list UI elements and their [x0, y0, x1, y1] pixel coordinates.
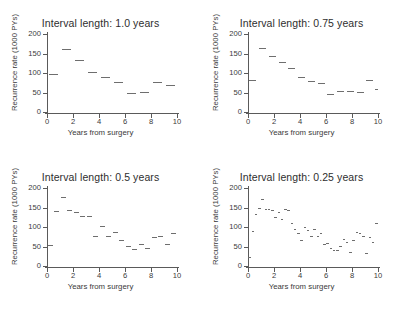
x-axis-tick-label: 8 — [141, 118, 161, 126]
y-axis-tick-label: 0 — [17, 262, 41, 270]
rate-interval-segment — [62, 49, 72, 50]
x-axis-tick-label: 8 — [342, 118, 362, 126]
rate-interval-segment — [127, 93, 137, 94]
rate-interval-segment — [333, 250, 335, 251]
y-axis-tick-label: 200 — [218, 30, 242, 38]
y-tick-label-wrap: 0 — [216, 266, 242, 267]
rate-interval-segment — [281, 219, 283, 220]
rate-interval-segment — [337, 91, 344, 92]
rate-interval-segment — [153, 82, 163, 83]
rate-interval-segment — [300, 240, 302, 241]
y-axis-tick-label: 0 — [218, 108, 242, 116]
rate-interval-segment — [75, 60, 85, 61]
rate-interval-segment — [346, 242, 348, 243]
y-axis-tick — [244, 266, 248, 267]
rate-interval-segment — [113, 232, 118, 233]
y-axis-tick — [43, 266, 47, 267]
y-axis-tick-label: 50 — [218, 243, 242, 251]
rate-interval-segment — [126, 246, 131, 247]
rate-interval-segment — [307, 230, 309, 231]
y-axis-label: Recurrence rate (1000 PYs) — [10, 157, 19, 277]
rate-interval-segment — [255, 214, 257, 215]
rate-interval-segment — [375, 223, 377, 224]
y-tick-label-wrap: 200 — [216, 188, 242, 189]
x-axis-tick-label: 10 — [167, 272, 187, 280]
rate-interval-segment — [114, 82, 124, 83]
plot-area — [248, 34, 378, 112]
rate-interval-segment — [269, 56, 276, 57]
rate-interval-segment — [93, 236, 98, 237]
plot-area — [47, 188, 177, 266]
chart-panel-3: Interval length: 0.5 years05010015020002… — [0, 154, 201, 308]
rate-interval-segment — [61, 197, 66, 198]
y-axis-tick-label: 150 — [218, 204, 242, 212]
y-tick-label-wrap: 100 — [15, 227, 41, 228]
rate-interval-segment — [139, 244, 144, 245]
y-axis-tick-label: 50 — [17, 243, 41, 251]
panel-title: Interval length: 0.25 years — [201, 171, 402, 183]
x-axis-line — [246, 267, 380, 268]
x-axis-line — [45, 267, 179, 268]
y-tick-label-wrap: 0 — [15, 112, 41, 113]
plot-area — [248, 188, 378, 266]
rate-interval-segment — [362, 236, 364, 237]
rate-interval-segment — [87, 216, 92, 217]
y-axis-tick-label: 150 — [17, 204, 41, 212]
y-axis-tick-label: 100 — [218, 69, 242, 77]
y-tick-label-wrap: 150 — [15, 208, 41, 209]
rate-interval-segment — [54, 211, 59, 212]
rate-interval-segment — [357, 92, 364, 93]
rate-interval-segment — [158, 236, 163, 237]
rate-interval-segment — [132, 249, 137, 250]
rate-interval-segment — [366, 80, 373, 81]
x-axis-tick-label: 0 — [238, 118, 258, 126]
rate-interval-segment — [67, 210, 72, 211]
rate-interval-segment — [347, 91, 354, 92]
x-axis-label: Years from surgery — [0, 282, 201, 291]
y-axis-tick — [244, 112, 248, 113]
rate-interval-segment — [106, 236, 111, 237]
rate-interval-segment — [265, 209, 267, 210]
y-axis-label: Recurrence rate (1000 PYs) — [10, 3, 19, 123]
rate-interval-segment — [249, 80, 256, 81]
rate-interval-segment — [88, 72, 98, 73]
y-tick-label-wrap: 150 — [216, 54, 242, 55]
y-tick-label-wrap: 100 — [216, 227, 242, 228]
x-axis-tick-label: 4 — [89, 118, 109, 126]
rate-interval-segment — [326, 243, 328, 244]
rate-interval-segment — [352, 240, 354, 241]
panel-title: Interval length: 0.75 years — [201, 17, 402, 29]
x-axis-tick-label: 0 — [37, 118, 57, 126]
x-axis-tick-label: 6 — [115, 272, 135, 280]
y-axis-tick-label: 50 — [218, 89, 242, 97]
rate-interval-segment — [317, 236, 319, 237]
y-axis-label: Recurrence rate (1000 PYs) — [211, 157, 220, 277]
plot-area — [47, 34, 177, 112]
rate-interval-segment — [375, 89, 377, 90]
y-tick-label-wrap: 50 — [216, 93, 242, 94]
y-axis-tick — [43, 112, 47, 113]
y-axis-tick-label: 200 — [17, 30, 41, 38]
rate-interval-segment — [284, 209, 286, 210]
rate-interval-segment — [297, 233, 299, 234]
rate-interval-segment — [100, 226, 105, 227]
rate-interval-segment — [271, 210, 273, 211]
rate-interval-segment — [320, 233, 322, 234]
rate-interval-segment — [258, 208, 260, 209]
x-axis-tick-label: 2 — [264, 272, 284, 280]
x-axis-tick-label: 0 — [238, 272, 258, 280]
rate-interval-segment — [49, 74, 59, 75]
rate-interval-segment — [291, 223, 293, 224]
y-tick-label-wrap: 0 — [15, 266, 41, 267]
y-axis-tick-label: 150 — [218, 50, 242, 58]
x-axis-tick-label: 10 — [167, 118, 187, 126]
rate-interval-segment — [278, 212, 280, 213]
rate-interval-segment — [294, 229, 296, 230]
x-axis-tick-label: 6 — [316, 118, 336, 126]
x-axis-line — [246, 113, 380, 114]
chart-panel-4: Interval length: 0.25 years0501001502000… — [201, 154, 402, 308]
x-axis-tick-label: 4 — [89, 272, 109, 280]
y-tick-label-wrap: 100 — [15, 73, 41, 74]
x-axis-tick-label: 2 — [264, 118, 284, 126]
rate-interval-segment — [327, 94, 334, 95]
